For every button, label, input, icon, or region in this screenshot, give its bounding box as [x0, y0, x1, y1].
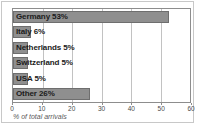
x-tick-label: 10	[38, 105, 45, 112]
plot-area: Germany 53%Italy 6%Netherlands 5%Switzer…	[12, 8, 191, 103]
bar-row: Netherlands 5%	[13, 40, 190, 56]
x-tick-label: 60	[187, 105, 194, 112]
chart-frame: Germany 53%Italy 6%Netherlands 5%Switzer…	[1, 1, 194, 123]
bar-label-other: Other 26%	[16, 88, 55, 100]
bar-row: Italy 6%	[13, 25, 190, 41]
bar-label-switzerland: Switzerland 5%	[16, 57, 73, 69]
bar-series: Germany 53%Italy 6%Netherlands 5%Switzer…	[13, 9, 190, 102]
bar-row: Germany 53%	[13, 9, 190, 25]
bar-label-germany: Germany 53%	[16, 11, 68, 23]
bar-row: Switzerland 5%	[13, 56, 190, 72]
bar-label-usa: USA 5%	[16, 73, 46, 85]
bar-row: USA 5%	[13, 71, 190, 87]
bar-row: Other 26%	[13, 87, 190, 103]
x-tick-label: 20	[68, 105, 75, 112]
x-tick-label: 30	[98, 105, 105, 112]
x-axis: 0102030405060	[12, 103, 191, 113]
bar-label-netherlands: Netherlands 5%	[16, 42, 75, 54]
x-tick-label: 40	[128, 105, 135, 112]
x-axis-title: % of total arrivals	[13, 113, 67, 120]
x-tick-label: 50	[158, 105, 165, 112]
x-tick-label: 0	[10, 105, 14, 112]
bar-label-italy: Italy 6%	[16, 26, 45, 38]
